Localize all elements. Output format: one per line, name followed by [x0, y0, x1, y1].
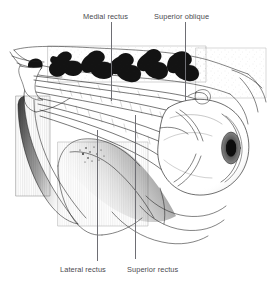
pupil	[228, 141, 236, 156]
globe	[158, 99, 249, 195]
leader-line-superior-rectus	[135, 115, 136, 259]
leader-line-medial-rectus	[111, 22, 112, 101]
label-lateral-rectus: Lateral rectus	[60, 265, 106, 274]
leader-line-lateral-rectus	[97, 130, 98, 261]
leader-line-superior-oblique	[185, 22, 186, 101]
anatomical-figure: Medial rectus Superior oblique Lateral r…	[0, 0, 271, 284]
optic-canal	[19, 66, 43, 100]
label-superior-rectus: Superior rectus	[127, 265, 178, 274]
label-superior-oblique: Superior oblique	[154, 12, 209, 21]
label-medial-rectus: Medial rectus	[83, 12, 128, 21]
muscle-striations	[58, 79, 172, 151]
